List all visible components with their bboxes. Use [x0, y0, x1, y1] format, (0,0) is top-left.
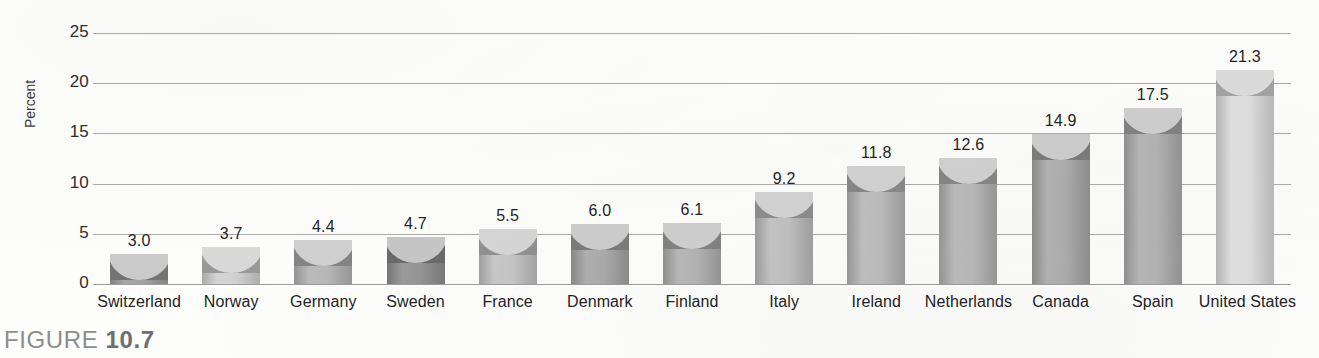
bar[interactable]: 17.5 — [1124, 108, 1182, 284]
bar-slot: 12.6 — [939, 33, 997, 284]
bar-top-highlight — [755, 192, 813, 218]
bar-slot: 9.2 — [755, 33, 813, 284]
bar[interactable]: 9.2 — [755, 192, 813, 284]
bar-value-label: 14.9 — [1045, 112, 1077, 130]
x-axis-category-label: Germany — [277, 293, 369, 311]
bar-slot: 14.9 — [1032, 33, 1090, 284]
bar-top-highlight — [479, 229, 537, 255]
bar-top-highlight — [1032, 134, 1090, 160]
gridline — [93, 284, 1291, 285]
bar-top-highlight — [847, 166, 905, 192]
bar-slot: 17.5 — [1124, 33, 1182, 284]
bar-slot: 11.8 — [847, 33, 905, 284]
x-axis-category-label: France — [462, 293, 554, 311]
y-axis-tick-label: 25 — [49, 22, 89, 42]
bar-top-highlight — [387, 237, 445, 263]
bar-value-label: 17.5 — [1137, 86, 1169, 104]
bar[interactable]: 3.0 — [110, 254, 168, 284]
figure-page: Percent 0510152025 3.03.74.44.75.56.06.1… — [0, 0, 1319, 358]
bar[interactable]: 3.7 — [202, 247, 260, 284]
bars-group: 3.03.74.44.75.56.06.19.211.812.614.917.5… — [93, 33, 1291, 284]
x-axis-category-label: Switzerland — [93, 293, 185, 311]
bar-slot: 21.3 — [1216, 33, 1274, 284]
x-axis-category-label: Ireland — [830, 293, 922, 311]
bar-value-label: 11.8 — [861, 144, 892, 162]
bar-value-label: 9.2 — [773, 170, 796, 188]
bar[interactable]: 5.5 — [479, 229, 537, 284]
bar-top-highlight — [202, 247, 260, 273]
x-axis-category-label: Finland — [646, 293, 738, 311]
bar[interactable]: 14.9 — [1032, 134, 1090, 284]
bar-value-label: 6.0 — [588, 202, 611, 220]
bar-slot: 5.5 — [479, 33, 537, 284]
figure-caption-prefix: FIGURE — [4, 326, 106, 353]
bar-fill — [1124, 108, 1182, 284]
bar[interactable]: 4.4 — [294, 240, 352, 284]
y-axis-tick-label: 10 — [49, 173, 89, 193]
bar-value-label: 4.4 — [312, 218, 335, 236]
x-axis-category-label: Denmark — [554, 293, 646, 311]
figure-caption: FIGURE 10.7 — [4, 326, 155, 354]
bar-value-label: 6.1 — [681, 201, 704, 219]
bar-value-label: 12.6 — [952, 136, 984, 154]
y-axis-tick-label: 15 — [49, 122, 89, 142]
y-axis-tick-label: 20 — [49, 72, 89, 92]
bar-slot: 6.1 — [663, 33, 721, 284]
bar-value-label: 4.7 — [404, 215, 427, 233]
bar-top-highlight — [939, 158, 997, 184]
bar-top-highlight — [663, 223, 721, 249]
bar-slot: 3.7 — [202, 33, 260, 284]
bar-value-label: 5.5 — [496, 207, 519, 225]
bar-top-highlight — [1216, 70, 1274, 96]
plot-area: 0510152025 3.03.74.44.75.56.06.19.211.81… — [93, 33, 1291, 284]
x-axis-category-label: United States — [1199, 293, 1291, 311]
bar-slot: 4.4 — [294, 33, 352, 284]
y-axis-tick-label: 5 — [49, 223, 89, 243]
bar-top-highlight — [1124, 108, 1182, 134]
x-axis-category-label: Canada — [1015, 293, 1107, 311]
bar[interactable]: 6.1 — [663, 223, 721, 284]
bar-slot: 4.7 — [387, 33, 445, 284]
bar-slot: 3.0 — [110, 33, 168, 284]
y-axis-tick-label: 0 — [49, 273, 89, 293]
y-axis-label: Percent — [22, 80, 38, 128]
bar[interactable]: 4.7 — [387, 237, 445, 284]
bar-value-label: 3.0 — [128, 232, 151, 250]
bar-value-label: 3.7 — [220, 225, 243, 243]
bar[interactable]: 21.3 — [1216, 70, 1274, 284]
bar-value-label: 21.3 — [1229, 48, 1261, 66]
bar-fill — [1216, 70, 1274, 284]
figure-caption-number: 10.7 — [106, 326, 155, 353]
x-axis-category-label: Spain — [1107, 293, 1199, 311]
bar-top-highlight — [294, 240, 352, 266]
bar-top-highlight — [571, 224, 629, 250]
x-axis-category-label: Norway — [185, 293, 277, 311]
bar-top-highlight — [110, 254, 168, 280]
x-axis-category-label: Sweden — [369, 293, 461, 311]
bar[interactable]: 12.6 — [939, 158, 997, 285]
bar[interactable]: 11.8 — [847, 166, 905, 284]
bar[interactable]: 6.0 — [571, 224, 629, 284]
bar-slot: 6.0 — [571, 33, 629, 284]
x-axis-category-label: Italy — [738, 293, 830, 311]
x-axis-category-label: Netherlands — [922, 293, 1014, 311]
